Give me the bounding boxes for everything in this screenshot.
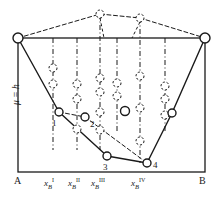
dashed-connector-lines — [100, 18, 140, 38]
dashed-upper-curve — [18, 14, 205, 38]
tick-superscript: III — [99, 177, 105, 183]
tick-subscript: B — [135, 183, 139, 190]
solid-phase-boundary — [18, 38, 205, 163]
endpoint-label-b: B — [199, 176, 206, 186]
tick-subscript: B — [48, 183, 52, 190]
tick-superscript: I — [52, 177, 54, 183]
tick-subscript: B — [72, 183, 76, 190]
tick-superscript: II — [76, 177, 80, 183]
node-label-1: 1 — [52, 119, 57, 128]
x-tick-label-II: xBII — [68, 177, 80, 190]
vertical-dashdot-lines — [53, 14, 165, 163]
dashed-node-markers — [49, 10, 169, 145]
node-label-2: 2 — [90, 120, 95, 129]
x-tick-label-IV: xBIV — [131, 177, 145, 190]
solid-node-markers — [13, 33, 210, 167]
tick-subscript: B — [95, 183, 99, 190]
x-tick-label-III: xBIII — [91, 177, 105, 190]
tick-superscript: IV — [139, 177, 145, 183]
node-label-3: 3 — [103, 163, 108, 172]
node-label-4: 4 — [153, 161, 158, 170]
figure-canvas: μ = h A B xBIxBIIxBIIIxBIV 1234 — [0, 0, 215, 199]
x-tick-label-I: xBI — [44, 177, 54, 190]
y-axis-label: μ = h — [12, 84, 22, 105]
plot-frame — [18, 38, 205, 172]
endpoint-label-a: A — [14, 176, 21, 186]
